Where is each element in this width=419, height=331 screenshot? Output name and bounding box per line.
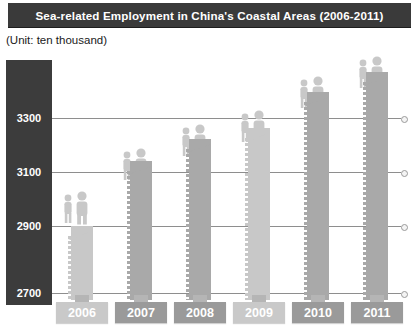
gridline-3100 [52,172,401,173]
x-axis-label-2008: 2008 [174,302,226,323]
plot-area [52,60,412,305]
gridline-endpoint-2700 [401,291,408,298]
gridline-endpoint-3100 [401,170,408,177]
gridline-endpoint-2900 [401,224,408,231]
bar-2011 [366,72,388,300]
gridline-endpoint-3300 [401,116,408,123]
x-axis-label-2010: 2010 [292,302,344,323]
gridline-3300 [52,118,401,119]
x-axis-label-2011: 2011 [351,302,403,323]
y-axis-tick-2700: 2700 [6,286,52,300]
x-axis-label-2007: 2007 [115,302,167,323]
gridline-2900 [52,226,401,227]
chart-title-bar: Sea-related Employment in China's Coasta… [8,3,411,27]
people-icon-2006 [59,191,103,225]
y-axis-tick-3100: 3100 [6,165,52,179]
gridline-2700 [52,293,401,294]
page-title: Sea-related Employment in China's Coasta… [35,9,383,22]
x-axis-label-row: 2006 2007 2008 2009 2010 2011 [52,302,412,326]
bar-serration-2008 [186,147,190,300]
bar-2008 [189,139,211,300]
bar-serration-2010 [304,100,308,300]
x-axis-label-2009: 2009 [233,302,285,323]
y-axis-tick-2900: 2900 [6,219,52,233]
bar-serration-2007 [127,169,131,300]
x-axis-label-2006: 2006 [56,302,108,323]
bar-2006 [71,226,93,300]
bar-serration-2011 [363,80,367,300]
bar-2010 [307,92,329,300]
y-axis-tick-3300: 3300 [6,111,52,125]
y-axis-band [6,60,52,305]
unit-caption: (Unit: ten thousand) [6,34,107,46]
bar-2009 [248,128,270,300]
bar-serration-2006 [68,234,72,300]
bar-serration-2009 [245,136,249,300]
chart-container: Sea-related Employment in China's Coasta… [0,0,419,331]
bar-2007 [130,161,152,300]
